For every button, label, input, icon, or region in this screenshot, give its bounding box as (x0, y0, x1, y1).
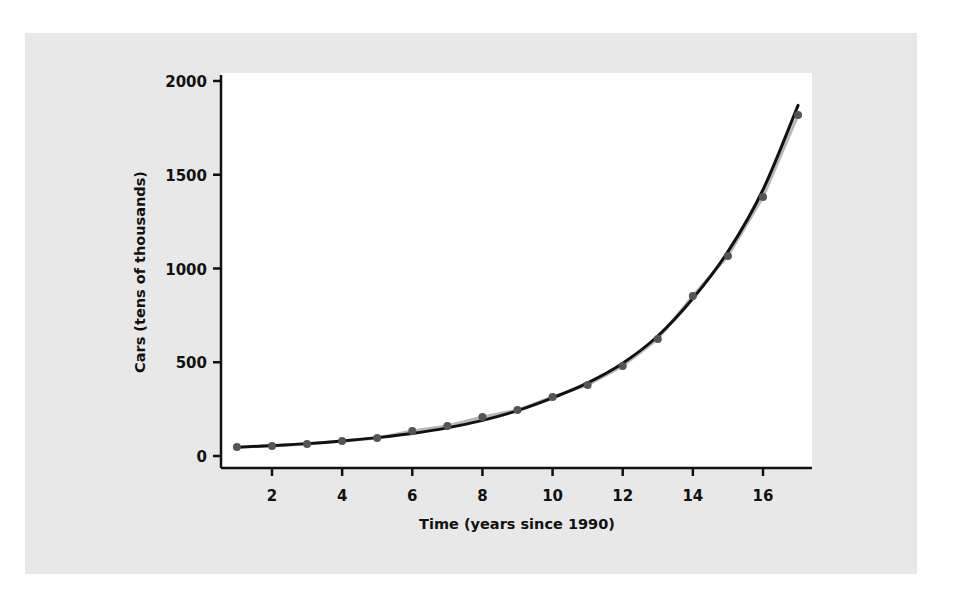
y-tick-label: 0 (197, 448, 207, 466)
x-tick-label: 12 (612, 487, 633, 505)
data-point (549, 393, 557, 401)
data-point (373, 434, 381, 442)
data-point (654, 335, 662, 343)
x-tick-label: 10 (542, 487, 563, 505)
data-point (759, 193, 767, 201)
data-point (233, 443, 241, 451)
y-tick-label: 1500 (165, 167, 207, 185)
data-point (584, 381, 592, 389)
data-point (268, 442, 276, 450)
y-tick-label: 2000 (165, 73, 207, 91)
data-point (443, 422, 451, 430)
x-tick-label: 14 (682, 487, 703, 505)
data-point (478, 413, 486, 421)
x-tick-label: 6 (407, 487, 417, 505)
chart-svg: 0500100015002000 246810121416 Time (year… (0, 0, 955, 605)
data-connector-line (237, 115, 798, 447)
x-axis-label: Time (years since 1990) (419, 516, 615, 532)
data-point (619, 362, 627, 370)
y-axis-label: Cars (tens of thousands) (132, 171, 148, 373)
data-points (233, 111, 802, 451)
x-tick-label: 16 (753, 487, 774, 505)
data-point (303, 440, 311, 448)
data-point (724, 252, 732, 260)
exponential-fit-line (237, 105, 798, 447)
data-point (689, 292, 697, 300)
x-axis: 246810121416 (221, 468, 812, 505)
y-tick-label: 500 (176, 354, 207, 372)
y-tick-label: 1000 (165, 261, 207, 279)
data-point (794, 111, 802, 119)
data-point (408, 427, 416, 435)
x-tick-label: 4 (337, 487, 347, 505)
x-tick-label: 8 (477, 487, 487, 505)
data-point (514, 406, 522, 414)
data-point (338, 437, 346, 445)
y-axis: 0500100015002000 (165, 73, 221, 468)
x-tick-label: 2 (267, 487, 277, 505)
